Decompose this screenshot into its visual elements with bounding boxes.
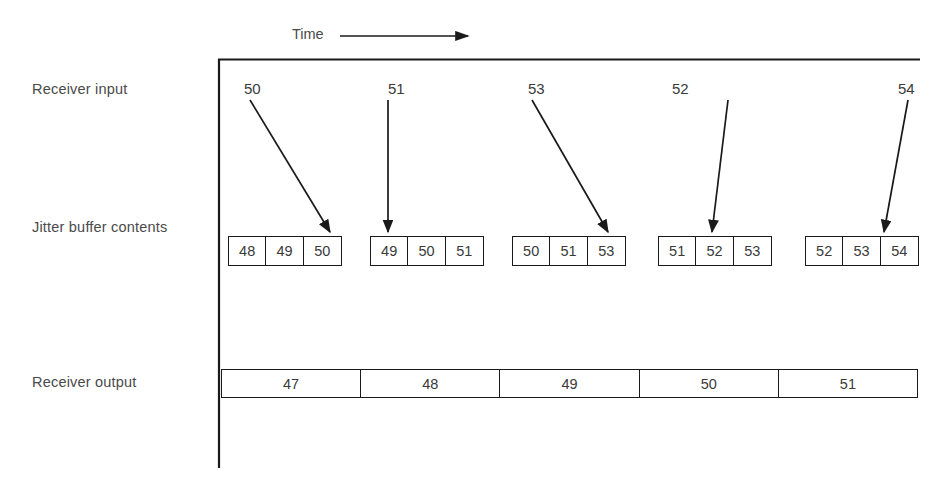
packet-arrow-50	[250, 100, 330, 232]
row-label-receiver-input: Receiver input	[32, 81, 128, 97]
buffer-cell: 53	[843, 237, 880, 265]
packet-arrow-54	[884, 100, 908, 232]
buffer-cell: 53	[588, 237, 625, 265]
buffer-cell: 53	[734, 237, 771, 265]
buffer-cell: 51	[659, 237, 696, 265]
receiver-input-value: 50	[244, 80, 261, 97]
buffer-cell: 52	[696, 237, 733, 265]
time-axis-label: Time	[292, 26, 324, 42]
jitter-buffer-group: 52 53 54	[805, 236, 919, 266]
jitter-buffer-group: 49 50 51	[370, 236, 484, 266]
receiver-input-value: 51	[388, 80, 405, 97]
jitter-buffer-group: 50 51 53	[512, 236, 626, 266]
buffer-cell: 51	[550, 237, 587, 265]
receiver-input-value: 53	[528, 80, 545, 97]
buffer-cell: 51	[446, 237, 483, 265]
jitter-buffer-group: 48 49 50	[228, 236, 342, 266]
buffer-cell: 50	[304, 237, 341, 265]
packet-arrow-53	[532, 100, 608, 232]
buffer-cell: 49	[266, 237, 303, 265]
output-cell: 50	[640, 370, 779, 397]
buffer-cell: 48	[229, 237, 266, 265]
output-cell: 49	[500, 370, 639, 397]
output-cell: 51	[779, 370, 917, 397]
receiver-input-value: 54	[898, 80, 915, 97]
row-label-jitter-buffer: Jitter buffer contents	[32, 219, 168, 235]
buffer-cell: 54	[881, 237, 918, 265]
output-cell: 47	[222, 370, 361, 397]
buffer-cell: 50	[513, 237, 550, 265]
output-cell: 48	[361, 370, 500, 397]
receiver-input-value: 52	[672, 80, 689, 97]
receiver-output-row: 47 48 49 50 51	[221, 369, 918, 398]
buffer-cell: 49	[371, 237, 408, 265]
buffer-cell: 50	[408, 237, 445, 265]
buffer-cell: 52	[806, 237, 843, 265]
jitter-buffer-group: 51 52 53	[658, 236, 772, 266]
row-label-receiver-output: Receiver output	[32, 374, 137, 390]
diagram-canvas: Time Receiver input Jitter buffer conten…	[0, 0, 946, 489]
packet-arrow-52	[712, 100, 728, 232]
